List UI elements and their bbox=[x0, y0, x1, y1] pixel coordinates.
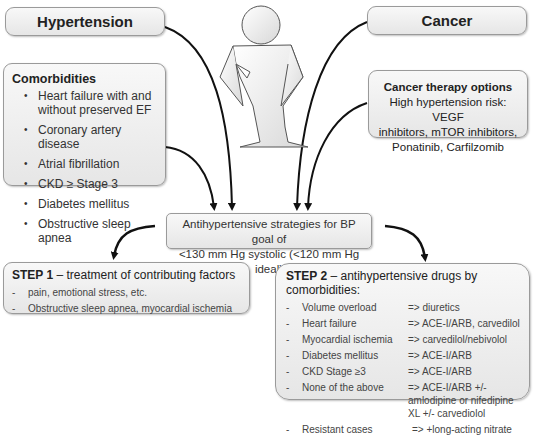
cancer-box: Cancer bbox=[367, 6, 527, 35]
hypertension-label: Hypertension bbox=[37, 13, 133, 30]
condition-cell: Diabetes mellitus bbox=[302, 349, 408, 362]
step1-box: STEP 1 – treatment of contributing facto… bbox=[3, 262, 250, 314]
list-item: -Obstructive sleep apnea, myocardial isc… bbox=[12, 302, 241, 315]
table-row: -Resistant cases=> +long-acting nitrate bbox=[286, 423, 523, 436]
cancer-therapy-box: Cancer therapy options High hypertension… bbox=[368, 70, 528, 138]
drug-cell: => +long-acting nitrate bbox=[408, 423, 523, 436]
table-row: -None of the above=> ACE-I/ARB +/- amlod… bbox=[286, 381, 523, 420]
hypertension-box: Hypertension bbox=[5, 7, 165, 36]
drug-cell: => ACE-I/ARB bbox=[408, 349, 523, 362]
drug-cell: => ACE-I/ARB +/- amlodipine or nifedipin… bbox=[408, 381, 523, 420]
condition-cell: Myocardial ischemia bbox=[302, 333, 408, 346]
condition-cell: Heart failure bbox=[302, 317, 408, 330]
step1-label: STEP 1 bbox=[12, 268, 53, 282]
list-item: -pain, emotional stress, etc. bbox=[12, 286, 241, 299]
cancer-label: Cancer bbox=[422, 12, 473, 29]
table-row: -Diabetes mellitus=> ACE-I/ARB bbox=[286, 349, 523, 362]
cancer-therapy-line: Ponatinib, Carfilzomib bbox=[373, 140, 523, 155]
strategy-line-1: Antihypertensive strategies for BP goal … bbox=[171, 217, 367, 247]
step2-list: -Volume overload=> diuretics -Heart fail… bbox=[286, 301, 523, 436]
list-item: Diabetes mellitus bbox=[24, 197, 159, 211]
arrow-cancer-therapy bbox=[308, 103, 367, 207]
drug-cell: => ACE-I/ARB, carvedilol bbox=[408, 317, 523, 330]
comorbidities-title: Comorbidities bbox=[12, 72, 159, 86]
list-item: CKD ≥ Stage 3 bbox=[24, 177, 159, 191]
step1-title: STEP 1 – treatment of contributing facto… bbox=[12, 268, 241, 282]
list-item: Coronary artery disease bbox=[24, 123, 159, 151]
cancer-therapy-title: Cancer therapy options bbox=[373, 80, 523, 95]
drug-cell: => carvedilol/nebivolol bbox=[408, 333, 523, 346]
step2-title: STEP 2 – antihypertensive drugs by comor… bbox=[286, 269, 523, 297]
cancer-therapy-line: High hypertension risk: VEGF bbox=[373, 95, 523, 125]
cancer-therapy-line: inhibitors, mTOR inhibitors, bbox=[373, 125, 523, 140]
comorbidities-box: Comorbidities Heart failure with and wit… bbox=[3, 63, 166, 186]
list-item: Obstructive sleep apnea bbox=[24, 217, 159, 245]
arrow-cancer bbox=[297, 22, 367, 207]
condition-cell: None of the above bbox=[302, 381, 408, 420]
arrow-to-step2 bbox=[385, 226, 425, 258]
arrow-hypertension bbox=[165, 27, 232, 207]
list-item-text: Obstructive sleep apnea, myocardial isch… bbox=[28, 302, 232, 315]
table-row: -Heart failure=> ACE-I/ARB, carvedilol bbox=[286, 317, 523, 330]
step2-box: STEP 2 – antihypertensive drugs by comor… bbox=[275, 263, 530, 400]
list-item-text: pain, emotional stress, etc. bbox=[28, 286, 147, 299]
person-figure-icon bbox=[220, 6, 308, 147]
drug-cell: => diuretics bbox=[408, 301, 523, 314]
table-row: -Volume overload=> diuretics bbox=[286, 301, 523, 314]
list-item: Heart failure with and without preserved… bbox=[24, 89, 159, 117]
arrow-comorbidities bbox=[165, 147, 214, 207]
comorbidities-list: Heart failure with and without preserved… bbox=[12, 89, 159, 245]
condition-cell: Volume overload bbox=[302, 301, 408, 314]
table-row: -CKD Stage ≥3=> ACE-I/ARB bbox=[286, 365, 523, 378]
list-item: Atrial fibrillation bbox=[24, 157, 159, 171]
condition-cell: Resistant cases bbox=[302, 423, 408, 436]
drug-cell: => ACE-I/ARB bbox=[408, 365, 523, 378]
strategy-box: Antihypertensive strategies for BP goal … bbox=[166, 213, 372, 249]
step2-label: STEP 2 bbox=[286, 269, 327, 283]
table-row: -Myocardial ischemia=> carvedilol/nebivo… bbox=[286, 333, 523, 346]
condition-cell: CKD Stage ≥3 bbox=[302, 365, 408, 378]
step1-list: -pain, emotional stress, etc. -Obstructi… bbox=[12, 286, 241, 315]
step1-title-text: – treatment of contributing factors bbox=[53, 268, 235, 282]
